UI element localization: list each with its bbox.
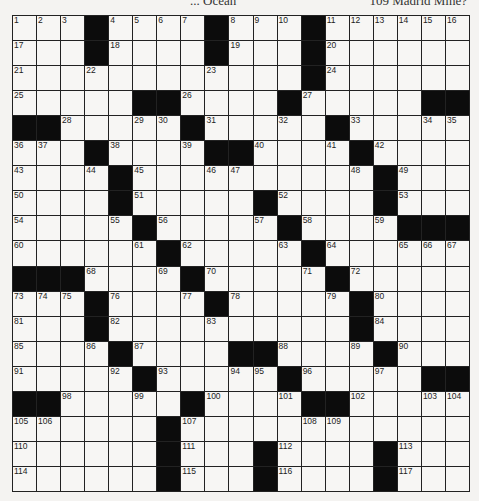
crossword-cell[interactable]: 117 [398,467,421,491]
crossword-cell[interactable]: 71 [302,267,325,291]
crossword-cell[interactable] [422,166,445,190]
crossword-cell[interactable]: 74 [37,292,60,316]
crossword-cell[interactable]: 6 [157,16,180,40]
crossword-cell[interactable]: 96 [302,367,325,391]
crossword-cell[interactable]: 107 [181,417,204,441]
crossword-cell[interactable]: 9 [254,16,277,40]
crossword-cell[interactable] [422,467,445,491]
crossword-cell[interactable] [157,317,180,341]
crossword-cell[interactable] [181,317,204,341]
crossword-cell[interactable]: 5 [133,16,156,40]
crossword-cell[interactable]: 33 [350,116,373,140]
crossword-cell[interactable] [85,116,108,140]
crossword-cell[interactable] [254,241,277,265]
crossword-cell[interactable] [181,342,204,366]
crossword-cell[interactable] [157,166,180,190]
crossword-cell[interactable] [109,442,132,466]
crossword-cell[interactable] [398,417,421,441]
crossword-cell[interactable] [302,191,325,215]
crossword-cell[interactable]: 68 [85,267,108,291]
crossword-cell[interactable] [422,417,445,441]
crossword-cell[interactable]: 113 [398,442,421,466]
crossword-cell[interactable]: 79 [326,292,349,316]
crossword-cell[interactable]: 76 [109,292,132,316]
crossword-cell[interactable]: 56 [157,216,180,240]
crossword-cell[interactable] [422,442,445,466]
crossword-cell[interactable] [302,317,325,341]
crossword-cell[interactable] [61,66,84,90]
crossword-cell[interactable]: 26 [181,91,204,115]
crossword-cell[interactable] [133,442,156,466]
crossword-cell[interactable]: 110 [13,442,36,466]
crossword-cell[interactable] [205,216,228,240]
crossword-cell[interactable] [157,392,180,416]
crossword-cell[interactable] [229,241,252,265]
crossword-cell[interactable] [254,267,277,291]
crossword-cell[interactable]: 92 [109,367,132,391]
crossword-cell[interactable]: 37 [37,141,60,165]
crossword-cell[interactable] [374,66,397,90]
crossword-cell[interactable]: 70 [205,267,228,291]
crossword-cell[interactable]: 47 [229,166,252,190]
crossword-cell[interactable]: 30 [157,116,180,140]
crossword-cell[interactable] [398,367,421,391]
crossword-cell[interactable]: 75 [61,292,84,316]
crossword-cell[interactable] [61,442,84,466]
crossword-cell[interactable] [205,191,228,215]
crossword-cell[interactable] [398,41,421,65]
crossword-cell[interactable]: 52 [278,191,301,215]
crossword-cell[interactable]: 41 [326,141,349,165]
crossword-cell[interactable] [278,41,301,65]
crossword-cell[interactable]: 22 [85,66,108,90]
crossword-cell[interactable]: 98 [61,392,84,416]
crossword-cell[interactable] [398,292,421,316]
crossword-cell[interactable]: 80 [374,292,397,316]
crossword-cell[interactable] [350,442,373,466]
crossword-cell[interactable]: 3 [61,16,84,40]
crossword-cell[interactable] [254,41,277,65]
crossword-cell[interactable]: 46 [205,166,228,190]
crossword-cell[interactable] [133,317,156,341]
crossword-cell[interactable]: 85 [13,342,36,366]
crossword-cell[interactable]: 94 [229,367,252,391]
crossword-cell[interactable] [326,166,349,190]
crossword-cell[interactable] [157,41,180,65]
crossword-cell[interactable] [254,392,277,416]
crossword-cell[interactable]: 42 [374,141,397,165]
crossword-cell[interactable]: 50 [13,191,36,215]
crossword-cell[interactable]: 1 [13,16,36,40]
crossword-cell[interactable]: 91 [13,367,36,391]
crossword-cell[interactable] [85,91,108,115]
crossword-cell[interactable] [350,367,373,391]
crossword-cell[interactable]: 116 [278,467,301,491]
crossword-cell[interactable]: 2 [37,16,60,40]
crossword-cell[interactable] [422,191,445,215]
crossword-cell[interactable]: 36 [13,141,36,165]
crossword-cell[interactable] [229,191,252,215]
crossword-cell[interactable]: 40 [254,141,277,165]
crossword-cell[interactable] [278,417,301,441]
crossword-cell[interactable] [37,342,60,366]
crossword-cell[interactable] [85,367,108,391]
crossword-cell[interactable] [133,292,156,316]
crossword-cell[interactable]: 43 [13,166,36,190]
crossword-cell[interactable] [326,342,349,366]
crossword-cell[interactable] [205,417,228,441]
crossword-cell[interactable] [374,241,397,265]
crossword-cell[interactable] [374,392,397,416]
crossword-cell[interactable] [326,317,349,341]
crossword-cell[interactable] [61,91,84,115]
crossword-cell[interactable]: 17 [13,41,36,65]
crossword-cell[interactable] [422,317,445,341]
crossword-cell[interactable] [446,442,469,466]
crossword-cell[interactable]: 59 [374,216,397,240]
crossword-cell[interactable] [422,342,445,366]
crossword-cell[interactable] [205,442,228,466]
crossword-cell[interactable]: 95 [254,367,277,391]
crossword-cell[interactable]: 19 [229,41,252,65]
crossword-cell[interactable] [133,417,156,441]
crossword-cell[interactable] [61,467,84,491]
crossword-cell[interactable]: 35 [446,116,469,140]
crossword-cell[interactable]: 23 [205,66,228,90]
crossword-cell[interactable]: 15 [422,16,445,40]
